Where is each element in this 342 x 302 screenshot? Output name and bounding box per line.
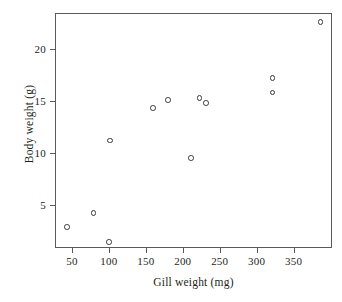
x-axis-tick-label: 100 [89, 255, 129, 268]
data-point [165, 97, 171, 103]
data-point [107, 138, 113, 144]
y-axis-tick [50, 101, 55, 102]
data-points-layer [56, 14, 331, 247]
data-point [150, 105, 156, 111]
plot-frame [55, 13, 332, 248]
x-axis-tick [257, 248, 258, 253]
x-axis-tick [294, 248, 295, 253]
y-axis-title: Body weight (g) [23, 49, 35, 199]
y-axis-tick [50, 49, 55, 50]
x-axis-tick [146, 248, 147, 253]
x-axis-tick-label: 150 [126, 255, 166, 268]
data-point [318, 19, 324, 25]
x-axis-tick-label: 300 [237, 255, 277, 268]
y-axis-tick [50, 153, 55, 154]
y-axis-tick [50, 205, 55, 206]
x-axis-tick-label: 50 [52, 255, 92, 268]
y-axis-tick-label: 15 [16, 95, 46, 107]
x-axis-tick [220, 248, 221, 253]
data-point [91, 210, 97, 216]
x-axis-tick [72, 248, 73, 253]
y-axis-tick-label: 5 [16, 199, 46, 211]
x-axis-title: Gill weight (mg) [55, 276, 332, 288]
data-point [203, 100, 209, 106]
x-axis-tick [183, 248, 184, 253]
y-axis-tick-label: 10 [16, 147, 46, 159]
scatter-plot-figure: Gill weight (mg) Body weight (g) 5010015… [0, 0, 342, 302]
data-point [270, 90, 276, 96]
data-point [106, 239, 112, 245]
x-axis-tick-label: 350 [274, 255, 314, 268]
data-point [270, 75, 276, 81]
x-axis-tick [109, 248, 110, 253]
data-point [197, 95, 203, 101]
x-axis-tick-label: 250 [200, 255, 240, 268]
y-axis-tick-label: 20 [16, 43, 46, 55]
data-point [188, 155, 194, 161]
data-point [64, 224, 70, 230]
x-axis-tick-label: 200 [163, 255, 203, 268]
